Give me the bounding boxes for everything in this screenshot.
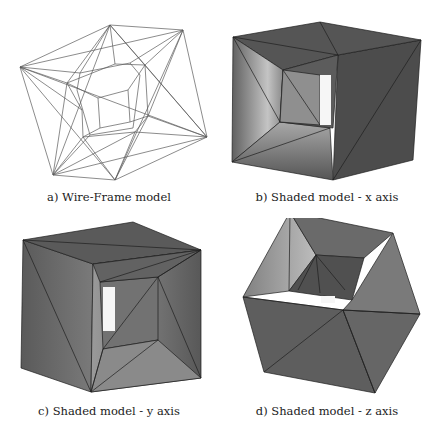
panel-wireframe-model: a) Wire-Frame model: [0, 0, 218, 218]
panel-shaded-y-axis: c) Shaded model - y axis: [0, 218, 218, 435]
hole-opening: [321, 296, 335, 303]
wireframe-model-figure: [0, 0, 218, 218]
shaded-z-axis-figure: [218, 218, 436, 435]
shaded-y-axis-figure: [0, 218, 218, 435]
caption-shaded-x: b) Shaded model - x axis: [218, 190, 436, 204]
caption-shaded-z: d) Shaded model - z axis: [218, 404, 436, 418]
shaded-x-axis-figure: [218, 0, 436, 218]
hole-opening: [320, 75, 331, 125]
panel-shaded-z-axis: d) Shaded model - z axis: [218, 218, 436, 435]
caption-shaded-y: c) Shaded model - y axis: [0, 404, 218, 418]
caption-wireframe: a) Wire-Frame model: [0, 190, 218, 204]
hole-opening: [103, 287, 115, 331]
panel-shaded-x-axis: b) Shaded model - x axis: [218, 0, 436, 218]
